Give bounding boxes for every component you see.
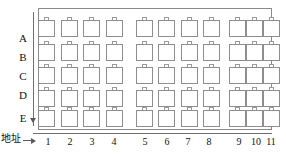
chip-cell-d1[interactable]	[38, 90, 55, 107]
chip-cell-d6[interactable]	[158, 90, 175, 107]
column-label-4: 4	[107, 136, 121, 147]
chip-cell-c5[interactable]	[136, 67, 153, 84]
chip-nub-icon	[252, 87, 257, 90]
chip-cell-b10[interactable]	[246, 44, 263, 61]
chip-nub-icon	[44, 17, 49, 20]
chip-cell-e5[interactable]	[136, 110, 153, 127]
horizontal-axis-line	[33, 133, 272, 134]
chip-cell-a3[interactable]	[83, 20, 100, 37]
chip-cell-d4[interactable]	[106, 90, 123, 107]
chip-cell-a7[interactable]	[181, 20, 198, 37]
chip-nub-icon	[269, 41, 274, 44]
chip-cell-d2[interactable]	[61, 90, 78, 107]
chip-nub-icon	[89, 17, 94, 20]
chip-nub-icon	[209, 17, 214, 20]
chip-nub-icon	[67, 87, 72, 90]
vertical-axis-line	[33, 12, 34, 126]
column-label-8: 8	[202, 136, 216, 147]
chip-cell-d11[interactable]	[263, 90, 280, 107]
chip-nub-icon	[142, 41, 147, 44]
chip-nub-icon	[112, 41, 117, 44]
chip-cell-d8[interactable]	[203, 90, 220, 107]
column-label-5: 5	[138, 136, 152, 147]
chip-cell-b6[interactable]	[158, 44, 175, 61]
chip-cell-c7[interactable]	[181, 67, 198, 84]
chip-cell-e7[interactable]	[181, 110, 198, 127]
chip-cell-b5[interactable]	[136, 44, 153, 61]
right-arrow-icon	[31, 138, 36, 144]
chip-cell-d3[interactable]	[83, 90, 100, 107]
row-label-a: A	[16, 33, 30, 44]
chip-nub-icon	[112, 17, 117, 20]
chip-cell-a5[interactable]	[136, 20, 153, 37]
chip-nub-icon	[269, 64, 274, 67]
chip-nub-icon	[235, 17, 240, 20]
chip-nub-icon	[44, 107, 49, 110]
chip-cell-c10[interactable]	[246, 67, 263, 84]
column-label-10: 10	[249, 136, 263, 147]
row-label-e: E	[16, 113, 30, 124]
chip-cell-d10[interactable]	[246, 90, 263, 107]
memory-module-diagram: 地址 ABCDE 1234567891011	[0, 0, 286, 154]
column-label-3: 3	[85, 136, 99, 147]
chip-cell-d7[interactable]	[181, 90, 198, 107]
chip-cell-e3[interactable]	[83, 110, 100, 127]
chip-cell-d9[interactable]	[229, 90, 246, 107]
chip-cell-e4[interactable]	[106, 110, 123, 127]
chip-nub-icon	[269, 17, 274, 20]
chip-cell-b8[interactable]	[203, 44, 220, 61]
chip-nub-icon	[164, 17, 169, 20]
chip-nub-icon	[187, 87, 192, 90]
chip-cell-e6[interactable]	[158, 110, 175, 127]
chip-nub-icon	[67, 107, 72, 110]
chip-cell-c11[interactable]	[263, 67, 280, 84]
chip-cell-c4[interactable]	[106, 67, 123, 84]
chip-cell-e11[interactable]	[263, 110, 280, 127]
chip-cell-a2[interactable]	[61, 20, 78, 37]
column-label-1: 1	[41, 136, 55, 147]
chip-cell-d5[interactable]	[136, 90, 153, 107]
chip-nub-icon	[67, 64, 72, 67]
chip-cell-c9[interactable]	[229, 67, 246, 84]
chip-cell-c2[interactable]	[61, 67, 78, 84]
column-label-9: 9	[232, 136, 246, 147]
chip-cell-a4[interactable]	[106, 20, 123, 37]
chip-nub-icon	[187, 107, 192, 110]
chip-nub-icon	[187, 17, 192, 20]
chip-cell-a10[interactable]	[246, 20, 263, 37]
chip-nub-icon	[44, 87, 49, 90]
chip-cell-c8[interactable]	[203, 67, 220, 84]
chip-cell-b3[interactable]	[83, 44, 100, 61]
chip-cell-e10[interactable]	[246, 110, 263, 127]
chip-cell-e2[interactable]	[61, 110, 78, 127]
chip-nub-icon	[269, 107, 274, 110]
chip-nub-icon	[112, 64, 117, 67]
chip-cell-a6[interactable]	[158, 20, 175, 37]
chip-cell-a1[interactable]	[38, 20, 55, 37]
chip-cell-e9[interactable]	[229, 110, 246, 127]
address-axis-caption: 地址	[1, 133, 21, 145]
chip-cell-c1[interactable]	[38, 67, 55, 84]
chip-cell-b4[interactable]	[106, 44, 123, 61]
chip-cell-b7[interactable]	[181, 44, 198, 61]
chip-cell-e8[interactable]	[203, 110, 220, 127]
chip-nub-icon	[252, 64, 257, 67]
chip-nub-icon	[142, 107, 147, 110]
chip-cell-c3[interactable]	[83, 67, 100, 84]
chip-cell-b1[interactable]	[38, 44, 55, 61]
chip-cell-b11[interactable]	[263, 44, 280, 61]
chip-cell-b9[interactable]	[229, 44, 246, 61]
up-arrow-icon	[30, 118, 36, 123]
chip-cell-a11[interactable]	[263, 20, 280, 37]
chip-nub-icon	[235, 107, 240, 110]
chip-cell-a8[interactable]	[203, 20, 220, 37]
column-label-2: 2	[63, 136, 77, 147]
chip-cell-b2[interactable]	[61, 44, 78, 61]
chip-cell-e1[interactable]	[38, 110, 55, 127]
chip-cell-c6[interactable]	[158, 67, 175, 84]
chip-nub-icon	[235, 64, 240, 67]
chip-nub-icon	[209, 64, 214, 67]
column-label-7: 7	[181, 136, 195, 147]
chip-cell-a9[interactable]	[229, 20, 246, 37]
chip-nub-icon	[89, 107, 94, 110]
